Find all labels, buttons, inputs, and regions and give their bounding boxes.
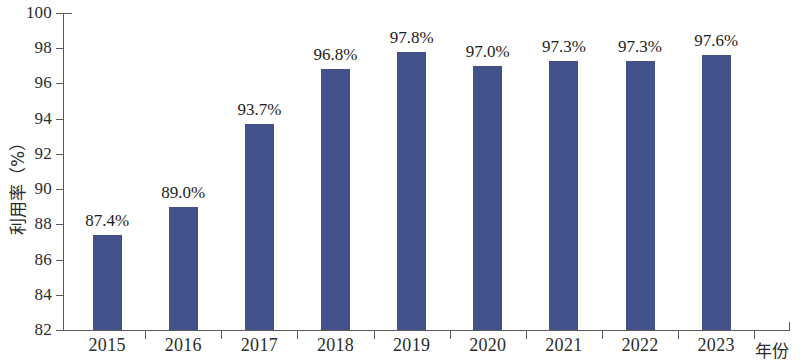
y-axis-tick-label: 82 <box>0 321 52 338</box>
bar[interactable] <box>702 55 731 330</box>
bar[interactable] <box>169 207 198 330</box>
y-axis-tick <box>56 295 64 296</box>
bar-value-label: 97.6% <box>656 32 776 49</box>
bar[interactable] <box>321 69 350 330</box>
bar[interactable] <box>245 124 274 330</box>
bar-value-label: 97.3% <box>580 38 700 55</box>
y-axis-title: 利用率（%） <box>4 95 29 275</box>
bar-value-label: 97.0% <box>428 43 548 60</box>
x-axis-line <box>63 330 790 331</box>
x-axis-title: 年份 <box>755 337 789 362</box>
bar-value-label: 97.8% <box>352 29 472 46</box>
y-axis-tick-label: 84 <box>0 286 52 303</box>
bar-value-label: 97.3% <box>504 38 624 55</box>
y-axis-tick <box>56 189 64 190</box>
bar[interactable] <box>93 235 122 330</box>
y-axis-tick <box>56 260 64 261</box>
bar[interactable] <box>397 52 426 330</box>
y-axis-tick <box>56 119 64 120</box>
bar-value-label: 89.0% <box>123 184 243 201</box>
y-axis-tick-label: 100 <box>0 4 52 21</box>
y-axis-tick-label: 96 <box>0 74 52 91</box>
y-axis-line <box>63 13 64 331</box>
y-axis-top-stub <box>63 13 72 14</box>
y-axis-tick <box>56 83 64 84</box>
bar[interactable] <box>549 61 578 330</box>
bar-value-label: 87.4% <box>47 212 167 229</box>
bar[interactable] <box>626 61 655 330</box>
y-axis-tick-label: 98 <box>0 39 52 56</box>
y-axis-tick <box>56 154 64 155</box>
bar-value-label: 93.7% <box>199 101 319 118</box>
y-axis-tick <box>56 224 64 225</box>
y-axis-tick <box>56 48 64 49</box>
bar[interactable] <box>473 66 502 330</box>
bar-value-label: 96.8% <box>276 46 396 63</box>
y-axis-tick <box>56 13 64 14</box>
x-axis-end-stub <box>789 322 790 331</box>
